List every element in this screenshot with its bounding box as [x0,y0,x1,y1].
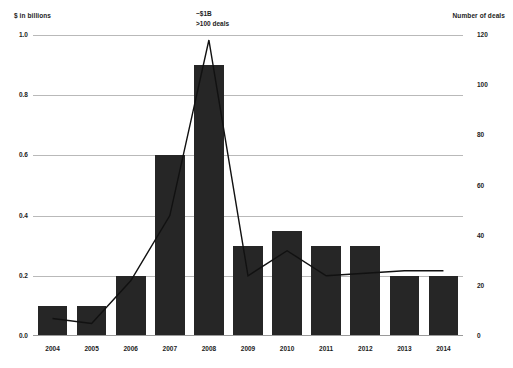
left-tick-0.4: 0.4 [19,212,28,219]
gridline [33,35,463,36]
x-tick-2009: 2009 [241,345,255,352]
x-tick-2004: 2004 [45,345,59,352]
right-tick-20: 20 [477,282,484,289]
bar-2014 [429,276,459,336]
right-tick-60: 60 [477,182,484,189]
left-axis-caption: $ in billions [14,12,51,19]
x-tick-2011: 2011 [319,345,333,352]
right-axis-caption: Number of deals [453,12,505,19]
right-tick-120: 120 [477,31,488,38]
right-tick-80: 80 [477,131,484,138]
bar-2006 [116,276,146,336]
x-tick-2007: 2007 [163,345,177,352]
x-tick-2005: 2005 [84,345,98,352]
peak-callout-line-2: >100 deals [196,19,229,29]
right-tick-100: 100 [477,81,488,88]
peak-callout-line-1: ~$1B [196,9,229,19]
bar-2011 [311,246,341,336]
bar-2010 [272,231,302,336]
gridline [33,155,463,156]
left-tick-0.8: 0.8 [19,91,28,98]
left-tick-0.0: 0.0 [19,332,28,339]
plot-area: 0.00.20.40.60.81.0 020406080100120 [33,35,463,336]
bar-2012 [350,246,380,336]
peak-callout-annotation: ~$1B >100 deals [196,9,229,29]
bar-2013 [390,276,420,336]
right-tick-40: 40 [477,232,484,239]
chart-container: $ in billions Number of deals ~$1B >100 … [0,0,513,368]
bar-2009 [233,246,263,336]
bar-2008 [194,65,224,336]
x-tick-2006: 2006 [123,345,137,352]
bar-2005 [77,306,107,336]
x-tick-2012: 2012 [358,345,372,352]
x-tick-2013: 2013 [397,345,411,352]
bar-2007 [155,155,185,336]
left-tick-0.2: 0.2 [19,272,28,279]
gridline [33,216,463,217]
x-tick-2010: 2010 [280,345,294,352]
right-tick-0: 0 [477,332,481,339]
x-tick-2014: 2014 [436,345,450,352]
gridline [33,95,463,96]
bar-2004 [38,306,68,336]
left-tick-0.6: 0.6 [19,151,28,158]
x-tick-2008: 2008 [202,345,216,352]
left-tick-1.0: 1.0 [19,31,28,38]
x-axis-baseline [33,335,463,336]
